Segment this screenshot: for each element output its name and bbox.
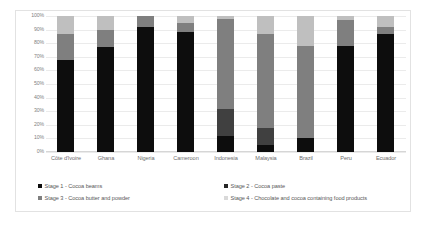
x-axis-tick-label: Ghana [86, 154, 126, 168]
y-axis-tick-label: 90% [18, 27, 44, 32]
bar-segment[interactable] [177, 23, 194, 33]
bar-column[interactable] [126, 16, 166, 152]
bar-column[interactable] [206, 16, 246, 152]
gridline [46, 152, 406, 153]
y-axis-tick-label: 30% [18, 109, 44, 114]
bar-segment[interactable] [177, 16, 194, 23]
bar-segment[interactable] [337, 46, 354, 152]
bar-segment[interactable] [217, 136, 234, 152]
bar-segment[interactable] [257, 34, 274, 128]
legend-item-stage-3[interactable]: Stage 3 - Cocoa butter and powder [38, 193, 130, 202]
y-axis-tick-label: 60% [18, 68, 44, 73]
bar-stack[interactable] [217, 16, 234, 152]
y-axis-tick-label: 50% [18, 81, 44, 86]
legend-item-stage-2[interactable]: Stage 2 - Cocoa paste [224, 181, 285, 190]
bar-segment[interactable] [57, 60, 74, 152]
x-axis-tick-label: Ecuador [366, 154, 406, 168]
x-axis-tick-label: Brazil [286, 154, 326, 168]
bar-segment[interactable] [377, 16, 394, 27]
bar-column[interactable] [166, 16, 206, 152]
y-axis-tick-label: 80% [18, 41, 44, 46]
bar-segment[interactable] [257, 145, 274, 152]
legend-swatch-stage-1 [38, 184, 42, 188]
bar-column[interactable] [246, 16, 286, 152]
plot-wrapper: 100%90%80%70%60%50%40%30%20%10%0% Côte d… [16, 11, 412, 161]
bar-stack[interactable] [337, 16, 354, 152]
bar-segment[interactable] [257, 128, 274, 146]
bar-segment[interactable] [217, 19, 234, 109]
bar-segment[interactable] [177, 32, 194, 152]
bar-segment[interactable] [257, 16, 274, 34]
legend-label-stage-4: Stage 4 - Chocolate and cocoa containing… [231, 195, 368, 201]
legend-swatch-stage-4 [224, 196, 228, 200]
bar-stack[interactable] [137, 16, 154, 152]
bar-column[interactable] [286, 16, 326, 152]
bar-stack[interactable] [257, 16, 274, 152]
x-axis-tick-label: Côte d'Ivoire [46, 154, 86, 168]
bar-segment[interactable] [97, 30, 114, 48]
legend-swatch-stage-2 [224, 184, 228, 188]
chart-legend: Stage 1 - Cocoa beams Stage 2 - Cocoa pa… [28, 179, 406, 207]
x-axis-tick-label: Indonesia [206, 154, 246, 168]
bar-segment[interactable] [97, 16, 114, 30]
bar-segment[interactable] [57, 16, 74, 34]
y-axis-tick-label: 0% [18, 149, 44, 154]
bar-segment[interactable] [377, 34, 394, 152]
bar-segment[interactable] [137, 16, 154, 27]
y-axis-tick-label: 100% [18, 13, 44, 18]
bar-column[interactable] [366, 16, 406, 152]
bar-segment[interactable] [97, 47, 114, 152]
y-axis: 100%90%80%70%60%50%40%30%20%10%0% [18, 16, 44, 152]
x-axis-tick-label: Peru [326, 154, 366, 168]
legend-item-stage-1[interactable]: Stage 1 - Cocoa beams [38, 181, 102, 190]
y-axis-tick-label: 10% [18, 136, 44, 141]
bar-segment[interactable] [137, 27, 154, 152]
bar-stack[interactable] [377, 16, 394, 152]
x-axis-tick-label: Cameroon [166, 154, 206, 168]
bar-segment[interactable] [217, 109, 234, 136]
x-axis-tick-label: Nigeria [126, 154, 166, 168]
bar-segment[interactable] [377, 27, 394, 34]
bar-stack[interactable] [297, 16, 314, 152]
bar-column[interactable] [86, 16, 126, 152]
legend-label-stage-1: Stage 1 - Cocoa beams [45, 183, 103, 189]
y-axis-tick-label: 20% [18, 122, 44, 127]
bar-stack[interactable] [57, 16, 74, 152]
bar-column[interactable] [326, 16, 366, 152]
legend-item-stage-4[interactable]: Stage 4 - Chocolate and cocoa containing… [224, 193, 367, 202]
x-axis: Côte d'IvoireGhanaNigeriaCameroonIndones… [46, 154, 406, 168]
bar-segment[interactable] [337, 20, 354, 46]
y-axis-tick-label: 40% [18, 95, 44, 100]
bar-segment[interactable] [297, 16, 314, 46]
plot-area [46, 16, 406, 152]
x-axis-tick-label: Malaysia [246, 154, 286, 168]
bar-series-group [46, 16, 406, 152]
bar-column[interactable] [46, 16, 86, 152]
y-axis-tick-label: 70% [18, 54, 44, 59]
bar-segment[interactable] [297, 46, 314, 138]
bar-stack[interactable] [177, 16, 194, 152]
chart-container: 100%90%80%70%60%50%40%30%20%10%0% Côte d… [15, 10, 411, 212]
legend-label-stage-2: Stage 2 - Cocoa paste [231, 183, 286, 189]
bar-segment[interactable] [57, 34, 74, 60]
legend-label-stage-3: Stage 3 - Cocoa butter and powder [45, 195, 130, 201]
bar-stack[interactable] [97, 16, 114, 152]
legend-swatch-stage-3 [38, 196, 42, 200]
bar-segment[interactable] [297, 138, 314, 152]
